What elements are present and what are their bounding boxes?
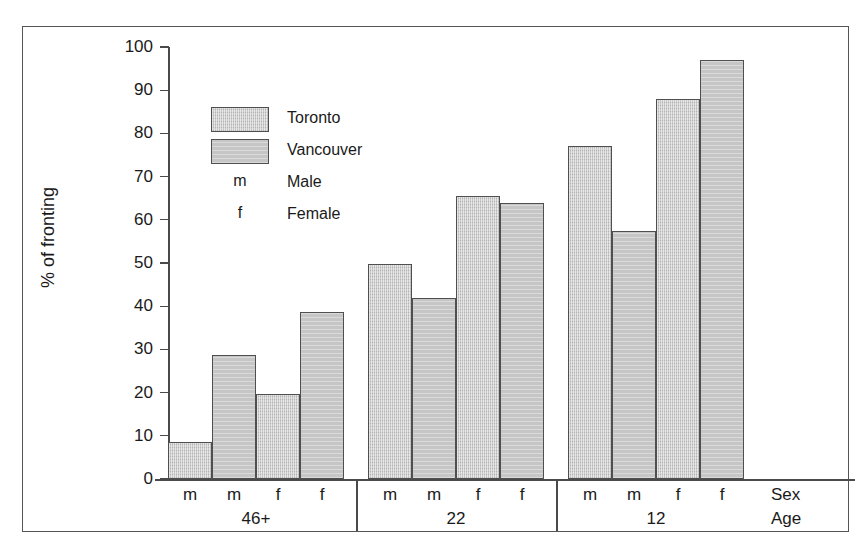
x-axis-sex-label: m [368, 485, 412, 505]
y-axis-tick [160, 90, 169, 91]
y-axis-tick-label-text: 100 [109, 37, 153, 57]
y-axis-tick-label-text: 0 [109, 469, 153, 489]
x-axis-sex-label: m [568, 485, 612, 505]
y-axis-tick-label-text: 10 [109, 426, 153, 446]
y-axis-tick-label-text: 90 [109, 80, 153, 100]
bar-46plus-m-vancouver [212, 355, 256, 479]
x-axis-age-group-label: 22 [368, 509, 544, 529]
y-axis-tick [160, 176, 169, 177]
legend-label: Toronto [287, 109, 340, 127]
bar-12-f-toronto [656, 99, 700, 479]
legend-key-f: f [211, 204, 269, 222]
bar-12-m-vancouver [612, 231, 656, 479]
caption-sliver [0, 0, 868, 14]
y-axis-tick [160, 262, 169, 263]
legend-label: Male [287, 173, 322, 191]
legend-swatch-toronto [211, 107, 269, 132]
y-axis-tick [160, 133, 169, 134]
y-axis-tick [160, 349, 169, 350]
y-axis-tick [160, 219, 169, 220]
chart-legend: TorontoVancouvermMalefFemale [211, 105, 481, 233]
axis-row-name-sex: Sex [771, 485, 800, 505]
y-axis-title: % of fronting [38, 118, 59, 358]
y-axis-tick-label-text: 30 [109, 339, 153, 359]
x-axis-age-group-label: 46+ [168, 509, 344, 529]
x-axis-sex-label: m [212, 485, 256, 505]
x-axis-sex-label: f [300, 485, 344, 505]
x-axis-sex-label: f [456, 485, 500, 505]
legend-row: fFemale [211, 201, 481, 233]
x-axis-sex-label: f [500, 485, 544, 505]
x-axis-sex-label: f [256, 485, 300, 505]
y-axis-tick-label-text: 70 [109, 167, 153, 187]
x-axis-sex-label: m [168, 485, 212, 505]
bar-22-m-toronto [368, 264, 412, 479]
legend-label: Vancouver [287, 141, 362, 159]
legend-label: Female [287, 205, 340, 223]
y-axis-tick [160, 306, 169, 307]
bar-46plus-f-vancouver [300, 312, 344, 479]
figure-frame: 0102030405060708090100 % of fronting mmf… [22, 26, 849, 532]
legend-row: Vancouver [211, 137, 481, 169]
legend-row: Toronto [211, 105, 481, 137]
y-axis-tick [160, 46, 169, 47]
y-axis-tick-label-text: 60 [109, 210, 153, 230]
bar-22-f-toronto [456, 196, 500, 479]
y-axis-tick [160, 435, 169, 436]
bar-12-m-toronto [568, 146, 612, 479]
x-axis-sex-label: m [612, 485, 656, 505]
x-axis-sex-label: m [412, 485, 456, 505]
legend-key-m: m [211, 172, 269, 190]
bar-46plus-f-toronto [256, 394, 300, 479]
y-axis-tick-label-text: 20 [109, 383, 153, 403]
bar-22-f-vancouver [500, 203, 544, 479]
bar-chart-plot: 0102030405060708090100 % of fronting mmf… [23, 27, 850, 533]
x-axis-line [155, 479, 855, 481]
bar-12-f-vancouver [700, 60, 744, 479]
y-axis-tick-label-text: 80 [109, 123, 153, 143]
group-divider-tick [556, 479, 558, 531]
legend-swatch-vancouver [211, 139, 269, 164]
x-axis-age-group-label: 12 [568, 509, 744, 529]
y-axis-tick-label-text: 40 [109, 296, 153, 316]
axis-row-name-age: Age [771, 509, 801, 529]
x-axis-sex-label: f [700, 485, 744, 505]
y-axis-tick [160, 392, 169, 393]
bar-46plus-m-toronto [168, 442, 212, 479]
y-axis-tick-label-text: 50 [109, 253, 153, 273]
group-divider-tick [356, 479, 358, 531]
x-axis-sex-label: f [656, 485, 700, 505]
bar-22-m-vancouver [412, 298, 456, 479]
legend-row: mMale [211, 169, 481, 201]
